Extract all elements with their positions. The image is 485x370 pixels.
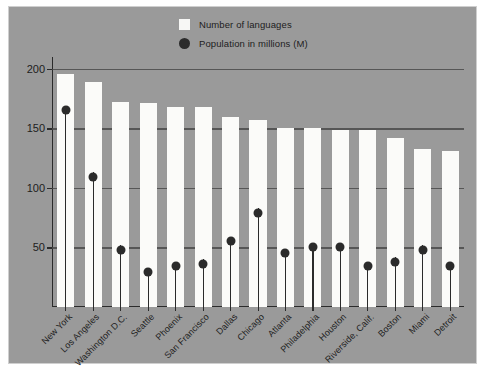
data-point-dot: [363, 262, 372, 271]
y-axis-tick-label: 200: [27, 63, 45, 75]
y-axis-tick-mark: [47, 128, 52, 129]
data-point-dot: [336, 243, 345, 252]
legend-item-population-label: Population in millions (M): [199, 38, 308, 49]
y-axis-tick-mark: [47, 247, 52, 248]
x-axis-category-label: Detroit: [432, 312, 458, 338]
plot-area: 50100150200 New YorkLos AngelesWashingto…: [52, 57, 464, 307]
y-axis-tick-label: 50: [33, 241, 45, 253]
data-point-dot: [281, 249, 290, 258]
data-point-dot: [116, 245, 125, 254]
x-axis-tick-mark: [312, 307, 313, 311]
legend-circle-dot-icon: [179, 38, 190, 49]
data-point-dot: [199, 259, 208, 268]
x-axis-category-label: Dallas: [214, 312, 239, 337]
scatter-stem: [120, 245, 121, 307]
scatter-stem: [65, 106, 66, 307]
legend-item-languages: Number of languages: [179, 16, 409, 32]
data-point-dot: [418, 245, 427, 254]
scatter-stem: [422, 245, 423, 307]
legend-square-swatch-icon: [179, 19, 190, 30]
data-point-dot: [226, 237, 235, 246]
data-point-dot: [308, 243, 317, 252]
x-axis-category-label: Riverside, Calif.: [323, 312, 376, 365]
x-axis-tick-mark: [65, 307, 66, 311]
x-axis-category-label: Seattle: [129, 312, 156, 339]
scatter-stem: [93, 172, 94, 307]
x-axis-category-label: Boston: [376, 312, 403, 339]
y-axis-tick-mark: [47, 188, 52, 189]
data-point-dot: [254, 208, 263, 217]
x-axis-tick-mark: [258, 307, 259, 311]
x-axis-category-label: Chicago: [235, 312, 266, 343]
scatter-stem: [312, 243, 313, 307]
data-point-dot: [171, 262, 180, 271]
data-point-dot: [446, 262, 455, 271]
gridline: [52, 69, 464, 70]
data-point-dot: [61, 106, 70, 115]
data-point-dot: [144, 268, 153, 277]
y-axis-line: [52, 57, 53, 307]
x-axis-tick-mark: [120, 307, 121, 311]
x-axis-tick-mark: [230, 307, 231, 311]
chart-figure: Number of languages Population in millio…: [8, 6, 477, 364]
legend-item-population: Population in millions (M): [179, 35, 409, 51]
x-axis-tick-mark: [367, 307, 368, 311]
x-axis-tick-mark: [175, 307, 176, 311]
scatter-stem: [258, 208, 259, 307]
x-axis-tick-mark: [422, 307, 423, 311]
y-axis-tick-label: 100: [27, 182, 45, 194]
legend-item-languages-label: Number of languages: [199, 19, 292, 30]
x-axis-category-label: Washington D.C.: [73, 312, 129, 368]
data-point-dot: [391, 257, 400, 266]
scatter-stem: [230, 237, 231, 307]
data-point-dot: [89, 172, 98, 181]
chart-legend: Number of languages Population in millio…: [179, 16, 409, 54]
x-axis-category-label: Miami: [407, 312, 431, 336]
y-axis-tick-label: 150: [27, 122, 45, 134]
y-axis-tick-mark: [47, 69, 52, 70]
scatter-stem: [340, 243, 341, 307]
